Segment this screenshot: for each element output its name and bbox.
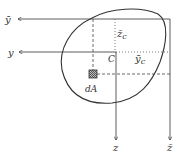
y-bar-label: ȳ <box>4 14 11 25</box>
y-label: y <box>7 47 14 58</box>
area-element-dA <box>89 70 97 78</box>
z-bar-label: z̄ <box>166 142 173 153</box>
centroid-diagram: ȳ y z z̄ z̄c C ȳc dA <box>0 0 183 163</box>
z-label: z <box>112 142 119 153</box>
zc-label: z̄c <box>116 28 127 41</box>
yc-label: ȳc <box>134 53 146 66</box>
dA-label: dA <box>85 84 98 94</box>
centroid-label: C <box>108 54 115 64</box>
